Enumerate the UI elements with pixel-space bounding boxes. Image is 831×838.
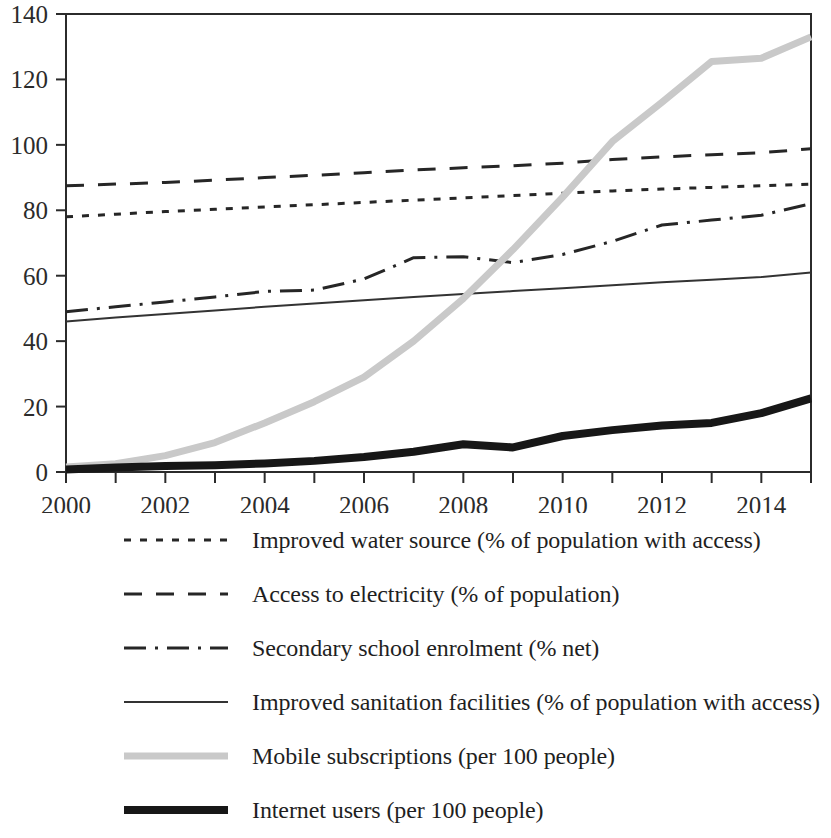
x-axis-tick-label: 2012 xyxy=(637,492,687,513)
line-chart-plot: 0204060801001201402000200220042006200820… xyxy=(0,0,831,513)
x-axis-tick-label: 2008 xyxy=(438,492,488,513)
x-axis-tick-label: 2002 xyxy=(140,492,190,513)
y-axis-tick-label: 60 xyxy=(23,263,48,290)
legend-item-label: Internet users (per 100 people) xyxy=(252,797,543,824)
series-line-4 xyxy=(66,37,811,467)
legend-item-label: Improved water source (% of population w… xyxy=(252,527,761,554)
legend-line-sample-icon xyxy=(124,692,228,712)
legend-item[interactable]: Secondary school enrolment (% net) xyxy=(0,621,831,675)
legend-line-sample-icon xyxy=(124,800,228,820)
y-axis-tick-label: 40 xyxy=(23,328,48,355)
plot-frame xyxy=(66,14,811,472)
legend-item[interactable]: Mobile subscriptions (per 100 people) xyxy=(0,729,831,783)
chart-legend: Improved water source (% of population w… xyxy=(0,513,831,837)
chart-figure: 0204060801001201402000200220042006200820… xyxy=(0,0,831,838)
legend-line-sample-icon xyxy=(124,584,228,604)
legend-item-label: Access to electricity (% of population) xyxy=(252,581,619,608)
legend-item-label: Improved sanitation facilities (% of pop… xyxy=(252,689,820,716)
legend-item-label: Mobile subscriptions (per 100 people) xyxy=(252,743,615,770)
x-axis-tick-label: 2004 xyxy=(240,492,291,513)
y-axis-tick-label: 100 xyxy=(11,132,49,159)
y-axis-tick-label: 20 xyxy=(23,394,48,421)
x-axis-tick-label: 2014 xyxy=(736,492,787,513)
y-axis-tick-label: 0 xyxy=(36,459,49,486)
legend-line-sample-icon xyxy=(124,746,228,766)
legend-item[interactable]: Improved sanitation facilities (% of pop… xyxy=(0,675,831,729)
legend-line-sample-icon xyxy=(124,638,228,658)
y-axis-tick-label: 120 xyxy=(11,66,49,93)
series-line-3 xyxy=(66,272,811,321)
y-axis-tick-label: 140 xyxy=(11,1,49,28)
legend-item[interactable]: Access to electricity (% of population) xyxy=(0,567,831,621)
legend-line-sample-icon xyxy=(124,530,228,550)
x-axis-tick-label: 2010 xyxy=(538,492,588,513)
series-line-1 xyxy=(66,149,811,186)
legend-item-label: Secondary school enrolment (% net) xyxy=(252,635,599,662)
y-axis-tick-label: 80 xyxy=(23,197,48,224)
series-line-5 xyxy=(66,398,811,469)
legend-item[interactable]: Internet users (per 100 people) xyxy=(0,783,831,837)
x-axis-tick-label: 2000 xyxy=(41,492,91,513)
x-axis-tick-label: 2006 xyxy=(339,492,389,513)
legend-item[interactable]: Improved water source (% of population w… xyxy=(0,513,831,567)
series-line-0 xyxy=(66,184,811,217)
